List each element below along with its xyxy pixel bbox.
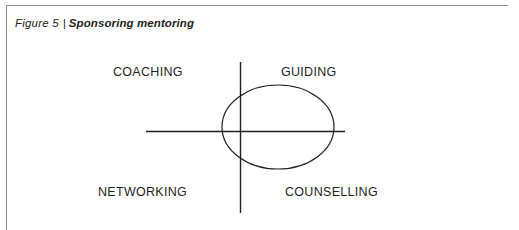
quadrant-label-coaching: COACHING bbox=[113, 65, 183, 79]
overlap-ellipse bbox=[222, 85, 334, 169]
diagram-canvas bbox=[0, 0, 519, 230]
figure-container: Figure 5|Sponsoring mentoring COACHING G… bbox=[0, 0, 519, 230]
quadrant-label-counselling: COUNSELLING bbox=[285, 185, 378, 199]
quadrant-diagram bbox=[0, 0, 519, 230]
quadrant-label-guiding: GUIDING bbox=[281, 65, 337, 79]
quadrant-label-networking: NETWORKING bbox=[98, 185, 187, 199]
